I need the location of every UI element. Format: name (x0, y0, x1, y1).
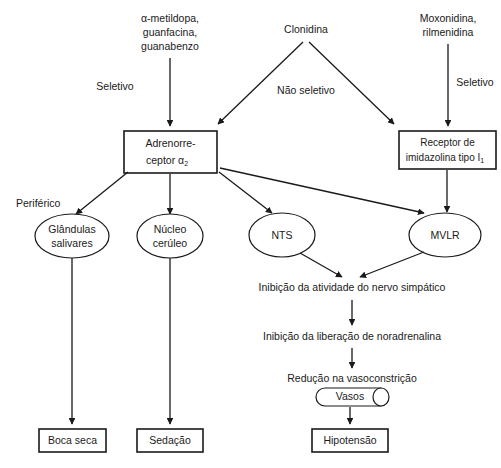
vessel-cylinder-cap (373, 388, 389, 406)
receptor-label-line-2: imidazolina tipo I1 (406, 152, 484, 164)
effector-node-nts[interactable]: NTS (249, 213, 315, 257)
receptor-node-imidazoline[interactable]: Receptor de imidazolina tipo I1 (399, 131, 496, 169)
arrow-clonidina-to-imidazoline (309, 42, 394, 124)
effector-node-mvlr[interactable]: MVLR (409, 213, 481, 257)
arrow-alpha2-to-salivary-glands (76, 172, 128, 214)
arrow-mvlr-to-sympathetic-inhibition (360, 252, 424, 277)
effector-label-line-1: Núcleo (154, 223, 187, 235)
effector-label-line-2: salivares (51, 237, 92, 249)
vessel-label: Vasos (336, 390, 364, 402)
effector-label-mvlr: MVLR (430, 229, 460, 241)
outcome-node-hypotension[interactable]: Hipotensão (312, 429, 388, 452)
label-periferico: Periférico (16, 197, 61, 209)
drug-label-clonidina: Clonidina (284, 23, 328, 35)
diagram-canvas: α-metildopa, guanfacina, guanabenzo Clon… (0, 0, 501, 468)
outcome-node-sedation[interactable]: Sedação (137, 429, 203, 452)
receptor-node-alpha2-adrenoceptor[interactable]: Adrenorre- ceptor α2 (124, 131, 217, 173)
outcome-node-dry-mouth[interactable]: Boca seca (39, 429, 106, 452)
arrow-clonidina-to-alpha2 (218, 42, 303, 124)
receptor-label-line-2-subscript: 2 (184, 160, 188, 167)
pathway-label-seletivo-right: Seletivo (456, 76, 494, 88)
drug-label-line-2: rilmenidina (423, 26, 474, 38)
arrow-nts-to-sympathetic-inhibition (300, 253, 342, 277)
receptor-label-line-1: Receptor de (420, 137, 475, 148)
receptor-label-line-2: ceptor α2 (146, 154, 188, 167)
cascade-text-vasoconstriction-reduction: Redução na vasoconstrição (287, 372, 417, 384)
receptor-label-line-2-main: imidazolina tipo I (406, 152, 480, 163)
cascade-text-sympathetic-inhibition: Inibição da atividade do nervo simpático (259, 281, 446, 293)
pathway-label-nao-seletivo: Não seletivo (277, 84, 335, 96)
vessel-node-vasos[interactable]: Vasos (316, 388, 389, 406)
drug-label-line-2: guanfacina, (143, 26, 197, 38)
receptor-label-line-1: Adrenorre- (145, 137, 196, 149)
effector-label-line-2: cerúleo (153, 237, 188, 249)
outcome-label-dry-mouth: Boca seca (48, 434, 97, 446)
drug-label-line-1: α-metildopa, (141, 12, 199, 24)
effector-node-salivary-glands[interactable]: Glândulas salivares (35, 214, 109, 258)
outcome-label-sedation: Sedação (149, 434, 191, 446)
outcome-label-hypotension: Hipotensão (323, 434, 376, 446)
drug-group-clonidine: Clonidina (284, 23, 328, 35)
cascade-text-noradrenaline-inhibition: Inibição da liberação de noradrenalina (263, 330, 441, 342)
effector-node-locus-coeruleus[interactable]: Núcleo cerúleo (137, 214, 203, 258)
drug-group-moxonidine: Moxonidina, rilmenidina (420, 12, 477, 38)
receptor-label-line-2-subscript: 1 (480, 157, 484, 164)
pathway-label-seletivo-left: Seletivo (96, 80, 134, 92)
effector-label-nts: NTS (272, 229, 293, 241)
drug-group-alpha-methyldopa: α-metildopa, guanfacina, guanabenzo (141, 12, 199, 52)
receptor-label-line-2-main: ceptor α (146, 154, 184, 166)
drug-label-line-3: guanabenzo (141, 40, 199, 52)
drug-label-line-1: Moxonidina, (420, 12, 477, 24)
arrow-alpha2-to-mvlr (220, 168, 424, 213)
flowchart-diagram: α-metildopa, guanfacina, guanabenzo Clon… (0, 0, 501, 468)
effector-label-line-1: Glândulas (48, 223, 95, 235)
